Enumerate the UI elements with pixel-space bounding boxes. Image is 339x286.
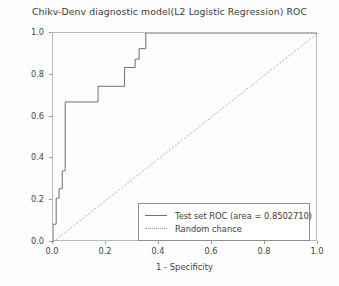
solid-line-swatch <box>145 215 167 216</box>
y-tick-mark <box>49 32 52 33</box>
x-tick-label: 0.6 <box>191 246 231 256</box>
x-tick-label: 0.8 <box>244 246 284 256</box>
x-tick-label: 0.4 <box>138 246 178 256</box>
x-tick-mark <box>105 241 106 244</box>
y-tick-label: 0.8 <box>4 69 44 79</box>
chart-legend: Test set ROC (area = 0.8502710) Random c… <box>138 203 310 241</box>
y-tick-mark <box>49 116 52 117</box>
y-tick-label: 0.2 <box>4 194 44 204</box>
y-tick-mark <box>49 199 52 200</box>
y-tick-label: 0.6 <box>4 111 44 121</box>
x-tick-mark <box>264 241 265 244</box>
chart-title: Chikv-Denv diagnostic model(L2 Logistic … <box>0 6 339 17</box>
figure-canvas: Chikv-Denv diagnostic model(L2 Logistic … <box>0 0 339 286</box>
y-axis-label-wrap: Sensitivity <box>14 136 15 137</box>
y-tick-label: 1.0 <box>4 27 44 37</box>
legend-item-test-set-roc: Test set ROC (area = 0.8502710) <box>145 209 303 222</box>
y-tick-label: 0.0 <box>4 236 44 246</box>
legend-item-random-chance: Random chance <box>145 222 303 235</box>
x-tick-label: 0.0 <box>32 246 72 256</box>
x-tick-mark <box>211 241 212 244</box>
y-tick-mark <box>49 74 52 75</box>
x-tick-mark <box>317 241 318 244</box>
dotted-line-swatch <box>145 228 167 229</box>
legend-label: Test set ROC (area = 0.8502710) <box>175 211 312 221</box>
x-tick-label: 0.2 <box>85 246 125 256</box>
y-tick-mark <box>49 157 52 158</box>
x-tick-mark <box>52 241 53 244</box>
legend-label: Random chance <box>175 224 242 234</box>
x-tick-mark <box>158 241 159 244</box>
x-tick-label: 1.0 <box>297 246 337 256</box>
y-tick-label: 0.4 <box>4 152 44 162</box>
x-axis-label: 1 - Specificity <box>52 262 317 272</box>
